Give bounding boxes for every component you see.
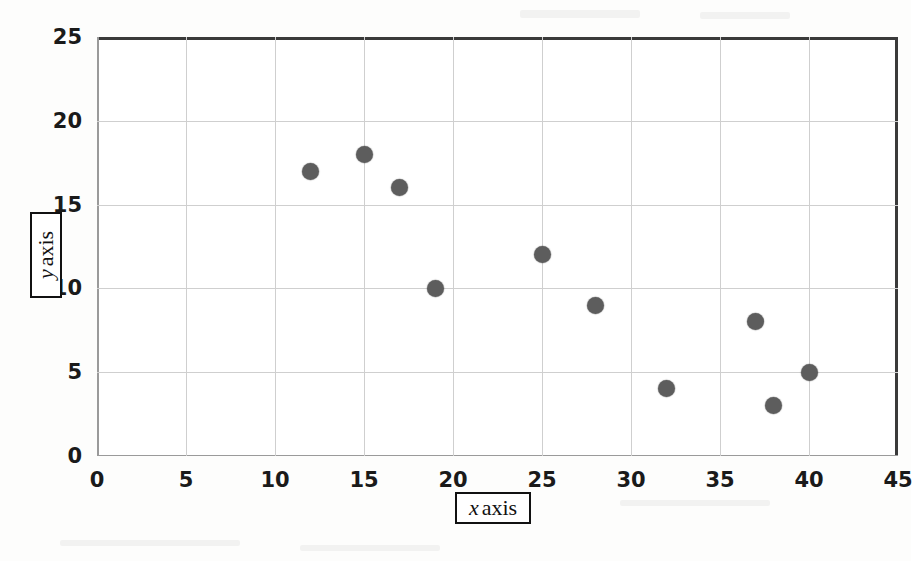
gridline-horizontal (97, 205, 898, 206)
gridline-horizontal (97, 372, 898, 373)
data-point (587, 297, 604, 314)
x-axis-title: xaxis (455, 492, 531, 524)
scan-artifact (620, 500, 770, 506)
data-point (747, 313, 764, 330)
data-point (302, 163, 319, 180)
gridline-horizontal (97, 121, 898, 122)
gridline-horizontal (97, 288, 898, 289)
gridline-vertical (720, 37, 721, 456)
x-tick-label: 40 (794, 468, 823, 492)
plot-border-left (97, 37, 99, 456)
data-point (658, 380, 675, 397)
data-point (765, 397, 782, 414)
scan-artifact (300, 545, 440, 551)
gridline-vertical (809, 37, 810, 456)
gridline-vertical (631, 37, 632, 456)
data-point (391, 179, 408, 196)
y-axis-title-variable: y (33, 266, 58, 279)
y-axis-title: yaxis (30, 212, 62, 298)
x-tick-label: 25 (527, 468, 556, 492)
data-point (534, 246, 551, 263)
data-point (356, 146, 373, 163)
y-axis-title-word: axis (33, 231, 58, 266)
scan-artifact (700, 12, 790, 19)
gridline-vertical (186, 37, 187, 456)
gridline-vertical (275, 37, 276, 456)
y-tick-label: 5 (20, 360, 82, 384)
x-tick-label: 10 (260, 468, 289, 492)
x-tick-label: 20 (438, 468, 467, 492)
x-tick-label: 5 (179, 468, 194, 492)
plot-border-top (97, 37, 898, 40)
x-tick-label: 30 (616, 468, 645, 492)
plot-area (97, 37, 898, 456)
x-tick-label: 35 (705, 468, 734, 492)
scan-artifact (520, 10, 640, 18)
gridline-vertical (364, 37, 365, 456)
y-tick-label: 25 (20, 25, 82, 49)
x-tick-label: 15 (349, 468, 378, 492)
data-point (427, 280, 444, 297)
y-tick-label: 0 (20, 444, 82, 468)
x-axis-title-variable: x (469, 495, 482, 520)
gridline-vertical (453, 37, 454, 456)
x-tick-label: 45 (883, 468, 912, 492)
x-axis-title-word: axis (482, 495, 517, 520)
plot-border-bottom (97, 455, 898, 457)
x-tick-label: 0 (90, 468, 105, 492)
scan-artifact (60, 540, 240, 546)
data-point (801, 364, 818, 381)
plot-border-right (895, 37, 898, 456)
y-tick-label: 20 (20, 108, 82, 132)
